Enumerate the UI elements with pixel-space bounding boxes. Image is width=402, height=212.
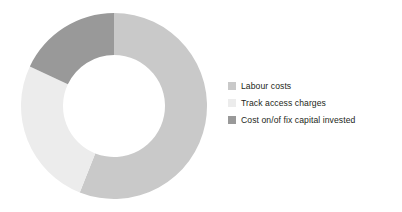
donut-svg [0,0,240,212]
chart-legend: Labour costs Track access charges Cost o… [228,78,400,129]
legend-label-cost-fix-capital-invested: Cost on/of fix capital invested [241,115,355,125]
donut-plot-area [0,0,240,212]
donut-slice-group [21,13,207,199]
legend-swatch-icon-track-access-charges [228,99,236,107]
legend-item-labour-costs[interactable]: Labour costs [228,78,400,94]
donut-chart-figure: Labour costs Track access charges Cost o… [0,0,402,212]
legend-label-labour-costs: Labour costs [241,81,291,91]
legend-swatch-icon-labour-costs [228,82,236,90]
donut-slice[interactable] [21,66,95,192]
legend-item-track-access-charges[interactable]: Track access charges [228,95,400,111]
legend-label-track-access-charges: Track access charges [241,98,326,108]
legend-item-cost-fix-capital-invested[interactable]: Cost on/of fix capital invested [228,112,400,128]
legend-swatch-icon-cost-fix-capital-invested [228,116,236,124]
